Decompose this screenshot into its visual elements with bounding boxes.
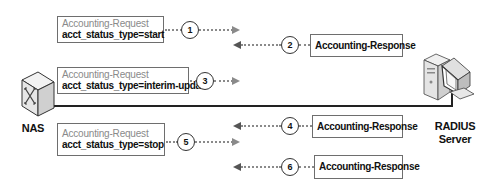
message-title: Accounting-Request xyxy=(62,128,160,139)
message-box-step-1: Accounting-Request acct_status_type=star… xyxy=(57,16,164,43)
message-box-step-6: Accounting-Response xyxy=(314,155,403,179)
step-number-3: 3 xyxy=(196,72,214,90)
arrow-line-step-3b xyxy=(214,80,233,82)
arrow-right-icon xyxy=(232,26,240,34)
server-computer-icon xyxy=(420,52,480,102)
message-box-step-3: Accounting-Request acct_status_type=inte… xyxy=(57,67,189,94)
step-number-6: 6 xyxy=(281,158,299,176)
arrow-line-step-1b xyxy=(199,29,233,31)
step-number-5: 5 xyxy=(177,133,195,151)
arrow-line-step-4 xyxy=(241,125,281,127)
arrow-line-step-5b xyxy=(195,141,233,143)
message-value: acct_status_type=start xyxy=(62,29,159,40)
network-link-line xyxy=(52,105,452,107)
message-value: acct_status_type=stop xyxy=(62,139,160,150)
message-box-step-5: Accounting-Request acct_status_type=stop xyxy=(57,123,165,156)
arrow-right-icon xyxy=(232,138,240,146)
arrow-line-step-1 xyxy=(165,29,182,31)
arrow-left-icon xyxy=(233,163,241,171)
message-box-step-4: Accounting-Response xyxy=(312,115,403,138)
arrow-line-step-6b xyxy=(299,166,314,168)
message-box-step-2: Accounting-Response xyxy=(310,34,403,57)
arrow-right-icon xyxy=(232,77,240,85)
radius-server-label-line1: RADIUS xyxy=(425,120,485,133)
network-switch-icon xyxy=(14,70,56,118)
message-value: acct_status_type=interim-update xyxy=(62,80,184,91)
step-number-2: 2 xyxy=(281,36,299,54)
message-title: Accounting-Request xyxy=(62,18,159,29)
arrow-line-step-2 xyxy=(241,44,281,46)
nas-label: NAS xyxy=(18,122,48,135)
arrow-line-step-2b xyxy=(299,44,310,46)
step-number-4: 4 xyxy=(281,117,299,135)
arrow-line-step-6 xyxy=(241,166,281,168)
message-title: Accounting-Request xyxy=(62,69,184,80)
arrow-left-icon xyxy=(233,41,241,49)
arrow-line-step-4b xyxy=(299,125,312,127)
radius-server-label: RADIUS Server xyxy=(425,120,485,146)
step-number-1: 1 xyxy=(181,21,199,39)
radius-server-label-line2: Server xyxy=(425,133,485,146)
arrow-left-icon xyxy=(233,122,241,130)
